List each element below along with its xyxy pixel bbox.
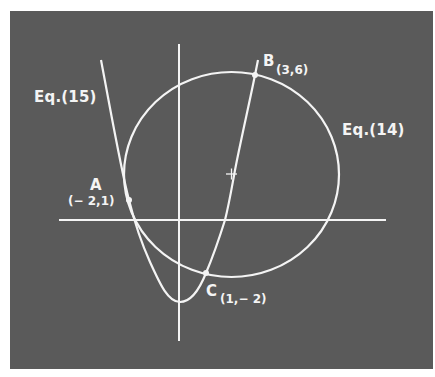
point-b-coord: (3,6) (276, 64, 308, 76)
point-b-label: B (263, 54, 274, 69)
point-b-dot (252, 72, 258, 78)
point-c-label: C (206, 284, 217, 299)
diagram-canvas (0, 0, 435, 377)
point-c-dot (203, 270, 209, 276)
eq15-label: Eq.(15) (34, 90, 97, 105)
point-a-label: A (90, 178, 102, 193)
point-c-coord: (1,− 2) (220, 293, 266, 305)
point-a-dot (126, 197, 132, 203)
point-a-coord: (− 2,1) (68, 195, 114, 207)
eq14-label: Eq.(14) (342, 123, 405, 138)
